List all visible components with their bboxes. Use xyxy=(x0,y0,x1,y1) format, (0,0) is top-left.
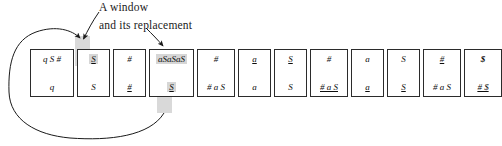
tape-cell[interactable]: $ # $ xyxy=(464,49,502,97)
cell-bottom-symbol: # a S xyxy=(318,82,340,92)
cell-bottom-symbol: S xyxy=(286,82,295,92)
cell-bottom-symbol: a xyxy=(363,82,372,92)
cell-bottom-symbol: a xyxy=(250,82,259,92)
replacement-highlight-band xyxy=(157,95,172,113)
tape-cell[interactable]: # # a S xyxy=(310,49,348,97)
cell-top-symbol: a xyxy=(250,54,259,64)
cell-top-symbol: $ xyxy=(479,54,488,64)
tape-cell[interactable]: S S xyxy=(77,49,110,97)
tape-strip: q S # q S S # # aSaSaS S # # a S a a S S xyxy=(30,49,502,97)
tape-cell[interactable]: aSaSaS S xyxy=(149,49,194,97)
tape-cell[interactable]: S S xyxy=(274,49,307,97)
replacement-label: and its replacement xyxy=(99,19,192,31)
tape-cell[interactable]: # # a S xyxy=(197,49,235,97)
cell-top-symbol: S xyxy=(286,54,295,64)
tape-cell[interactable]: a a xyxy=(238,49,271,97)
cell-bottom-symbol: # xyxy=(125,82,134,92)
cell-top-symbol: aSaSaS xyxy=(156,54,187,64)
tape-cell[interactable]: S S xyxy=(387,49,420,97)
cell-bottom-symbol: q xyxy=(48,82,57,92)
cell-bottom-symbol: S xyxy=(167,82,176,92)
cell-top-symbol: # xyxy=(325,54,334,64)
cell-bottom-symbol: # $ xyxy=(475,82,490,92)
cell-bottom-symbol: # a S xyxy=(431,82,453,92)
cell-bottom-symbol: S xyxy=(89,82,98,92)
window-label: A window xyxy=(99,1,148,13)
cell-top-symbol: q S # xyxy=(41,54,63,64)
cell-top-symbol: S xyxy=(399,54,408,64)
tape-cell[interactable]: # # xyxy=(113,49,146,97)
cell-top-symbol: S xyxy=(89,54,98,64)
tape-cell[interactable]: q S # q xyxy=(30,49,74,97)
cell-bottom-symbol: # a S xyxy=(205,82,227,92)
window-pointer-arrow xyxy=(84,12,100,39)
cell-top-symbol: a xyxy=(363,54,372,64)
tape-cell[interactable]: # # a S xyxy=(423,49,461,97)
cell-top-symbol: # xyxy=(125,54,134,64)
cell-top-symbol: # xyxy=(438,54,447,64)
cell-bottom-symbol: S xyxy=(399,82,408,92)
cell-top-symbol: # xyxy=(212,54,221,64)
tape-cell[interactable]: a a xyxy=(351,49,384,97)
